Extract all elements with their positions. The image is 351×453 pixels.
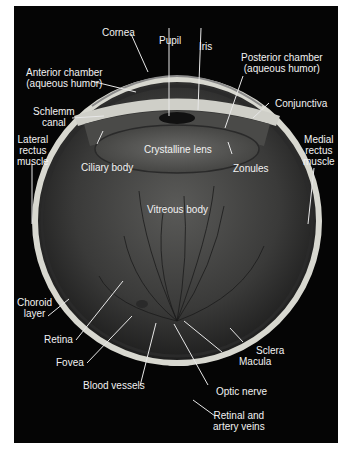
label-choroid-layer: Choroid layer — [17, 297, 52, 319]
label-fovea: Fovea — [56, 357, 84, 368]
eye-diagram-panel: Cornea Pupil Iris Anterior chamber (aque… — [14, 6, 338, 443]
label-blood-vessels: Blood vessels — [83, 380, 145, 391]
label-macula: Macula — [239, 356, 271, 367]
label-ciliary-body: Ciliary body — [81, 162, 133, 173]
label-crystalline-lens: Crystalline lens — [144, 144, 212, 155]
label-retina: Retina — [44, 334, 73, 345]
label-medial-rectus: Medial rectus muscle — [303, 134, 335, 167]
label-sclera: Sclera — [256, 345, 284, 356]
label-posterior-chamber: Posterior chamber (aqueous humor) — [241, 52, 323, 74]
label-anterior-chamber: Anterior chamber (aqueous humor) — [26, 67, 103, 89]
label-conjunctiva: Conjunctiva — [275, 98, 327, 109]
label-retinal-artery-veins: Retinal and artery veins — [213, 410, 265, 432]
label-schlemm-canal: Schlemm canal — [33, 106, 75, 128]
label-vitreous-body: Vitreous body — [147, 204, 208, 215]
label-optic-nerve: Optic nerve — [216, 386, 267, 397]
label-zonules: Zonules — [233, 163, 269, 174]
pupil-shape — [159, 112, 195, 124]
label-cornea: Cornea — [102, 27, 135, 38]
label-iris: Iris — [199, 41, 212, 52]
label-pupil: Pupil — [159, 35, 181, 46]
label-lateral-rectus: Lateral rectus muscle — [17, 134, 49, 167]
